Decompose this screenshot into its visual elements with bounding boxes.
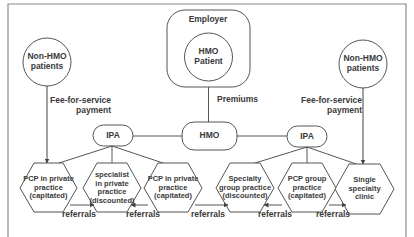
hmo-label: HMO [200,131,220,141]
premiums-label: Premiums [217,95,258,105]
branch [56,146,112,164]
hex-label-pcp-private-1: PCP in private practice (capitated) [23,175,74,201]
hex-label-pcp-private-2: PCP in private practice (capitated) [148,175,199,201]
fee-for-service-left-label: Fee-for-service payment [50,96,111,116]
non-hmo-left-label: Non-HMO patients [27,52,66,72]
ipa-left-label: IPA [106,131,120,141]
branch [252,147,307,164]
referrals-label: referrals [258,210,292,220]
hex-label-pcp-group: PCP group practice (capitated) [288,175,327,201]
branch [112,146,166,164]
non-hmo-right-label: Non-HMO patients [343,54,382,74]
hex-label-single-specialty: Single specialty clinic [348,176,380,202]
hmo-patient-label: HMO Patient [194,47,222,67]
employer-label: Employer [189,15,228,25]
referrals-label: referrals [62,210,96,220]
referrals-label: referrals [126,210,160,220]
fee-for-service-right-label: Fee-for-service payment [301,96,362,116]
referrals-label: referrals [316,210,350,220]
referrals-label: referrals [191,210,225,220]
hex-label-specialty-group: Specialty group practice (discounted) [219,175,271,201]
ipa-right-label: IPA [300,132,314,142]
hex-label-specialist-private: specialist in private practice (discount… [90,171,135,206]
